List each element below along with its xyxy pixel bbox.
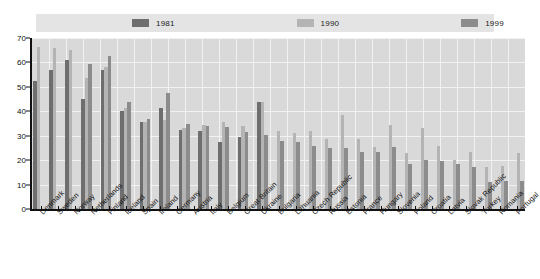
bar-group [257, 38, 268, 209]
bar-group [293, 38, 300, 209]
chart-legend: 1981 1990 1999 [36, 14, 494, 32]
bar-group [81, 38, 92, 209]
x-tick-mark [517, 206, 518, 210]
bar-group [469, 38, 476, 209]
y-axis: 010203040506070 [0, 38, 30, 210]
x-tick-mark [432, 206, 433, 210]
x-tick-mark [364, 206, 365, 210]
bar-group [120, 38, 131, 209]
x-tick-mark [398, 206, 399, 210]
legend-swatch-1999 [461, 19, 478, 27]
x-tick-mark [143, 206, 144, 210]
bar-group [238, 38, 249, 209]
bar [166, 93, 170, 209]
y-tick-label: 60 [17, 58, 26, 67]
legend-swatch-1990 [297, 19, 314, 27]
x-tick-mark [296, 206, 297, 210]
bar-group [198, 38, 209, 209]
x-tick-mark [262, 206, 263, 210]
legend-item-1990: 1990 [297, 19, 340, 28]
bar-group [101, 38, 112, 209]
x-tick-mark [109, 206, 110, 210]
y-tick-label: 10 [17, 180, 26, 189]
legend-label-1999: 1999 [485, 19, 504, 28]
x-tick-mark [58, 206, 59, 210]
x-tick-mark [75, 206, 76, 210]
bar-group [309, 38, 316, 209]
bar-group [159, 38, 170, 209]
y-tick-label: 40 [17, 107, 26, 116]
bar-group [437, 38, 444, 209]
bar-group [218, 38, 229, 209]
x-tick-mark [228, 206, 229, 210]
y-tick-label: 70 [17, 34, 26, 43]
bar-group [179, 38, 190, 209]
legend-item-1999: 1999 [461, 19, 504, 28]
legend-swatch-1981 [132, 19, 149, 27]
bar [225, 127, 229, 209]
legend-label-1981: 1981 [156, 19, 175, 28]
bar-groups [32, 38, 525, 209]
x-tick-mark [194, 206, 195, 210]
bar [53, 48, 57, 209]
bar-group [277, 38, 284, 209]
x-tick-mark [347, 206, 348, 210]
x-tick-mark [279, 206, 280, 210]
y-tick-label: 50 [17, 82, 26, 91]
x-tick-mark [41, 206, 42, 210]
x-tick-mark [126, 206, 127, 210]
bar-group [373, 38, 380, 209]
bar-group [140, 38, 151, 209]
x-tick-mark [211, 206, 212, 210]
bar [69, 50, 73, 209]
x-tick-mark [483, 206, 484, 210]
x-tick-mark [92, 206, 93, 210]
x-tick-mark [177, 206, 178, 210]
x-tick-mark [160, 206, 161, 210]
bar-group [405, 38, 412, 209]
bar [37, 47, 41, 209]
legend-label-1990: 1990 [321, 19, 340, 28]
x-tick-mark [466, 206, 467, 210]
bar [127, 102, 131, 209]
x-tick-mark [245, 206, 246, 210]
bar-group [453, 38, 460, 209]
bar-group [517, 38, 524, 209]
x-tick-mark [381, 206, 382, 210]
legend-item-1981: 1981 [132, 19, 175, 28]
bar-group [325, 38, 332, 209]
bar-group [33, 38, 40, 209]
bar [88, 64, 92, 209]
x-tick-mark [415, 206, 416, 210]
bar [108, 56, 112, 209]
bar-group [421, 38, 428, 209]
bar-group [65, 38, 72, 209]
x-tick-mark [449, 206, 450, 210]
bar-group [389, 38, 396, 209]
x-axis-labels: DenmarkSwedenNorwayNetherlandsFinlandIce… [32, 210, 525, 279]
x-tick-mark [313, 206, 314, 210]
bar-group [357, 38, 364, 209]
bar-group [49, 38, 56, 209]
y-tick-label: 20 [17, 156, 26, 165]
bar [147, 119, 151, 209]
x-tick-mark [500, 206, 501, 210]
x-tick-mark [330, 206, 331, 210]
y-tick-label: 30 [17, 131, 26, 140]
